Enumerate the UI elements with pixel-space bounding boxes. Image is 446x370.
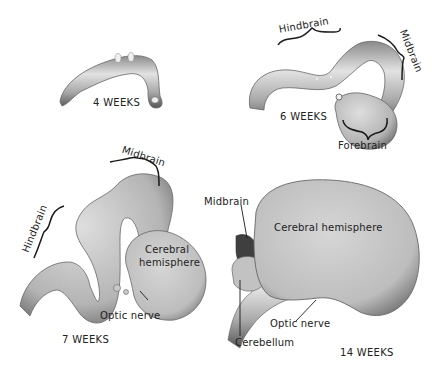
label-cerebral-hemisphere-7w-line1: Cerebral (145, 244, 189, 255)
label-optic-nerve-14w: Optic nerve (270, 318, 330, 329)
stage-label-4-weeks: 4 WEEKS (93, 97, 140, 108)
label-midbrain-14w: Midbrain (204, 196, 249, 207)
stage-label-14-weeks: 14 WEEKS (340, 347, 394, 358)
label-cerebral-hemisphere-14w: Cerebral hemisphere (274, 222, 383, 233)
label-cerebral-hemisphere-7w-line2: hemisphere (139, 257, 200, 268)
embryo-7-weeks (20, 157, 206, 323)
embryo-6-weeks (249, 28, 404, 149)
label-cerebellum-14w: Cerebellum (235, 337, 294, 348)
stage-label-7-weeks: 7 WEEKS (62, 334, 109, 345)
label-forebrain-6w: Forebrain (338, 140, 387, 151)
brain-development-illustration (0, 0, 446, 370)
label-optic-nerve-7w: Optic nerve (100, 310, 160, 321)
midbrain-pointer-14w (241, 205, 247, 238)
stage-label-6-weeks: 6 WEEKS (280, 111, 327, 122)
